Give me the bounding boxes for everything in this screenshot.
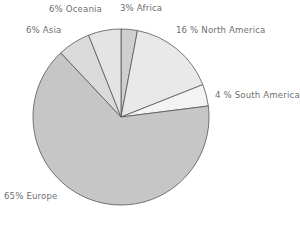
pie-chart-figure: 3% Africa16 % North America4 % South Ame… — [0, 0, 300, 226]
pie-label-europe: 65% Europe — [4, 192, 58, 201]
pie-label-africa: 3% Africa — [120, 4, 162, 13]
pie-label-north-america: 16 % North America — [176, 26, 265, 35]
pie-label-oceania: 6% Oceania — [49, 5, 102, 14]
pie-label-asia: 6% Asia — [26, 26, 61, 35]
pie-label-south-america: 4 % South America — [215, 91, 300, 100]
pie-slices-group — [33, 29, 209, 205]
